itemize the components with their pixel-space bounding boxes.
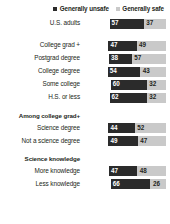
row-label: U.S. adults <box>0 20 86 26</box>
legend-label-generally-safe: Generally safe <box>122 6 164 12</box>
bar-segment-safe: 47 <box>138 136 166 146</box>
bar-segment-unsafe: 44 <box>108 123 134 133</box>
row-bars: 4749 <box>86 41 170 51</box>
row-label: Not a science degree <box>0 138 86 144</box>
chart-row: Science degree4452 <box>0 121 170 134</box>
stacked-bar: 6032 <box>111 80 166 90</box>
chart-row: Less knowledge6626 <box>0 177 170 190</box>
bar-segment-safe: 37 <box>144 19 166 29</box>
bar-segment-unsafe: 60 <box>111 80 147 90</box>
row-label: More knowledge <box>0 168 86 174</box>
row-label: College degree <box>0 68 86 74</box>
chart-row: Some college6032 <box>0 78 170 91</box>
row-label: Some college <box>0 81 86 87</box>
row-bars: 6232 <box>86 93 170 103</box>
bar-segment-safe: 32 <box>147 93 166 103</box>
row-bars: 4452 <box>86 123 170 133</box>
bar-segment-safe: 26 <box>150 179 166 189</box>
bar-segment-unsafe: 38 <box>109 54 132 64</box>
row-label: Science degree <box>0 125 86 131</box>
bar-segment-unsafe: 47 <box>109 166 137 176</box>
chart-row: H.S. or less6232 <box>0 91 170 104</box>
legend-item-generally-unsafe: Generally unsafe <box>53 6 109 12</box>
chart-row: More knowledge4748 <box>0 164 170 177</box>
row-bars: 6626 <box>86 179 170 189</box>
chart-row: College degree5443 <box>0 65 170 78</box>
stacked-bar: 4947 <box>108 136 166 146</box>
row-bars: 4947 <box>86 136 170 146</box>
row-label: Postgrad degree <box>0 55 86 61</box>
bar-segment-unsafe: 57 <box>110 19 144 29</box>
group-spacer <box>0 30 170 39</box>
row-label: College grad + <box>0 42 86 48</box>
legend-item-generally-safe: Generally safe <box>116 6 164 12</box>
chart-row: Not a science degree4947 <box>0 134 170 147</box>
bar-segment-safe: 32 <box>147 80 166 90</box>
bar-segment-unsafe: 62 <box>110 93 147 103</box>
bar-segment-unsafe: 66 <box>111 179 151 189</box>
bar-segment-safe: 48 <box>137 166 166 176</box>
row-bars: 5737 <box>86 19 170 29</box>
stacked-bar: 4452 <box>108 123 166 133</box>
stacked-bar: 4749 <box>108 41 166 51</box>
stacked-bar: 4748 <box>109 166 166 176</box>
row-label: Less knowledge <box>0 181 86 187</box>
stacked-bar: 3857 <box>109 54 166 64</box>
bar-segment-safe: 52 <box>135 123 166 133</box>
bar-segment-unsafe: 49 <box>108 136 137 146</box>
chart-row: College grad +4749 <box>0 39 170 52</box>
stacked-bar: 5443 <box>108 67 166 77</box>
bar-segment-safe: 49 <box>137 41 166 51</box>
square-swatch-icon <box>116 7 120 11</box>
stacked-bar: 5737 <box>110 19 166 29</box>
chart-row: Postgrad degree3857 <box>0 52 170 65</box>
square-swatch-icon <box>53 7 57 11</box>
row-bars: 3857 <box>86 54 170 64</box>
chart-legend: Generally unsafe Generally safe <box>0 0 170 15</box>
stacked-bar: 6232 <box>110 93 166 103</box>
bar-segment-unsafe: 47 <box>108 41 136 51</box>
survey-bar-chart: Generally unsafe Generally safe U.S. adu… <box>0 0 170 224</box>
chart-row: U.S. adults5737 <box>0 17 170 30</box>
row-bars: 6032 <box>86 80 170 90</box>
row-bars: 4748 <box>86 166 170 176</box>
chart-rows: U.S. adults5737College grad +4749Postgra… <box>0 15 170 190</box>
stacked-bar: 6626 <box>111 179 166 189</box>
legend-label-generally-unsafe: Generally unsafe <box>60 6 109 12</box>
row-label: H.S. or less <box>0 94 86 100</box>
row-bars: 5443 <box>86 67 170 77</box>
bar-segment-unsafe: 54 <box>108 67 140 77</box>
bar-segment-safe: 43 <box>140 67 166 77</box>
bar-segment-safe: 57 <box>132 54 166 64</box>
